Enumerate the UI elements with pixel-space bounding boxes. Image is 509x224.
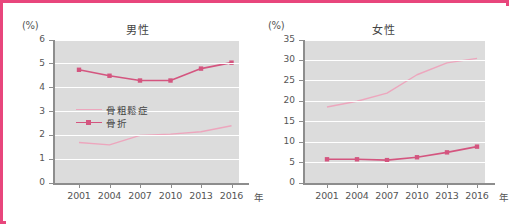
x-axis-tick [171,183,172,188]
plot-area-female [305,40,485,183]
x-axis-tick-label: 2013 [185,190,217,201]
gridline [305,121,485,122]
y-axis-tick [299,60,303,61]
series-line-fracture [79,63,232,81]
series-marker [77,68,81,72]
y-axis-tick-label: 0 [273,177,295,187]
x-axis-tick-label: 2007 [371,190,403,201]
gridline [55,63,239,64]
y-axis-tick [49,111,53,112]
gridline [305,101,485,102]
y-axis-tick [49,159,53,160]
y-axis-female [303,40,305,184]
series-marker [415,155,419,159]
y-axis-tick-label: 20 [273,95,295,105]
x-axis-tick [201,183,202,188]
chart-title-male: 男性 [18,21,257,37]
x-axis-male [53,183,249,185]
chart-panel-female: (%) 女性 05101520253035 200120042007201020… [264,18,503,222]
y-axis-tick [299,162,303,163]
gridline [305,162,485,163]
x-axis-tick-label: 2004 [94,190,126,201]
x-axis-tick [232,183,233,188]
series-marker [475,144,479,148]
x-axis-tick [447,183,448,188]
chart-title-female: 女性 [264,21,503,37]
x-axis-tick-label: 2016 [216,190,248,201]
series-line-osteoporosis [327,58,477,107]
gridline [55,40,239,41]
y-axis-tick-label: 30 [273,54,295,64]
series-marker [107,74,111,78]
y-axis-tick [299,40,303,41]
figure-frame: (%) 男性 0123456 200120042007201020132016 … [0,0,509,224]
y-axis-tick-label: 6 [23,34,45,44]
x-axis-tick-label: 2010 [401,190,433,201]
x-axis-tick [140,183,141,188]
gridline [55,87,239,88]
legend-swatch-line-icon [76,105,102,115]
y-axis-tick [299,183,303,184]
x-axis-tick-label: 2001 [311,190,343,201]
y-axis-tick [299,121,303,122]
gridline [305,80,485,81]
series-line-fracture [327,147,477,160]
x-axis-tick-label: 2013 [431,190,463,201]
y-axis-tick-label: 1 [23,153,45,163]
x-axis-female [303,183,495,185]
gridline [55,159,239,160]
y-axis-tick [49,135,53,136]
legend-swatch-line-marker-icon [76,118,102,128]
x-axis-tick [417,183,418,188]
x-axis-unit-male: 年 [254,190,264,204]
legend-label-fracture: 骨折 [106,116,127,130]
x-axis-tick-label: 2004 [341,190,373,201]
y-axis-tick-label: 2 [23,129,45,139]
gridline [55,135,239,136]
y-axis-tick-label: 0 [23,177,45,187]
legend-item-fracture: 骨折 [76,116,148,129]
series-marker [445,150,449,154]
y-axis-tick [49,87,53,88]
y-axis-tick [299,80,303,81]
y-axis-tick-label: 25 [273,75,295,85]
legend-item-osteoporosis: 骨粗鬆症 [76,103,148,116]
y-axis-tick [49,40,53,41]
series-marker [168,78,172,82]
x-axis-tick [79,183,80,188]
legend-label-osteoporosis: 骨粗鬆症 [106,103,148,117]
y-axis-tick [49,183,53,184]
x-axis-tick-label: 2007 [124,190,156,201]
y-axis-tick-label: 10 [273,136,295,146]
x-axis-tick-label: 2001 [63,190,95,201]
y-axis-tick [299,101,303,102]
chart-panel-male: (%) 男性 0123456 200120042007201020132016 … [18,18,257,222]
y-axis-tick-label: 15 [273,116,295,126]
series-marker [138,78,142,82]
series-marker [325,157,329,161]
figure-frame-inner: (%) 男性 0123456 200120042007201020132016 … [6,6,509,224]
y-axis-tick [299,142,303,143]
x-axis-tick-label: 2010 [155,190,187,201]
y-axis-tick-label: 5 [273,157,295,167]
x-axis-unit-female: 年 [499,190,509,204]
x-axis-tick [357,183,358,188]
gridline [305,142,485,143]
x-axis-tick-label: 2016 [461,190,493,201]
x-axis-tick [387,183,388,188]
y-axis-tick-label: 35 [273,34,295,44]
series-marker [355,157,359,161]
y-axis-tick-label: 3 [23,106,45,116]
y-axis-male [53,40,55,184]
x-axis-tick [327,183,328,188]
x-axis-tick [110,183,111,188]
chart-legend-male: 骨粗鬆症 骨折 [76,103,148,129]
series-marker [199,66,203,70]
y-axis-tick-label: 5 [23,58,45,68]
x-axis-tick [477,183,478,188]
gridline [305,40,485,41]
y-axis-tick-label: 4 [23,82,45,92]
y-axis-tick [49,63,53,64]
gridline [305,60,485,61]
